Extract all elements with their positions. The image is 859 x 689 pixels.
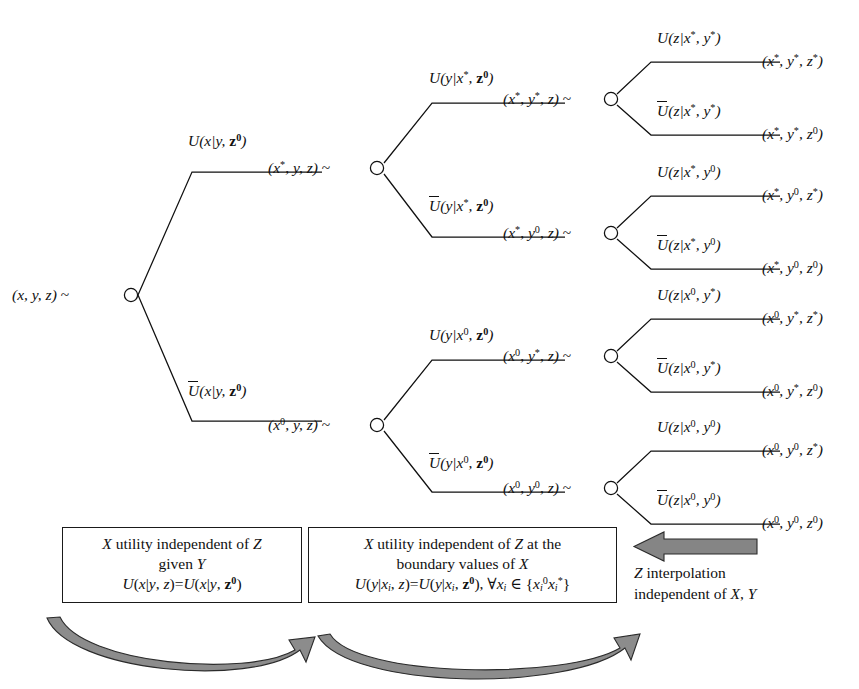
leaf-outcome-1: (x*, y*, z*) [762, 53, 823, 69]
branch-label-l3-5: U(z|x0, y*) [657, 287, 721, 303]
edge-l2c-upper [617, 319, 780, 351]
branch-label-l3-8: U(z|x0, y0) [657, 492, 721, 508]
branch-label-l1-upper: U(x|y, z0) [188, 133, 246, 149]
branch-label-l3-1: U(z|x*, y*) [657, 30, 721, 46]
branch-label-l2-c: U(y|x0, z0) [429, 327, 493, 343]
branch-label-l3-2: U(z|x*, y*) [657, 103, 721, 119]
note-right-line2: boundary values of X [309, 554, 616, 574]
leaf-outcome-5: (x0, y*, z*) [762, 310, 823, 326]
state-l2-c: (x0, y*, z) ~ [503, 348, 571, 364]
caption-right-line1: Z interpolation [634, 564, 726, 581]
leaf-outcome-7: (x0, y0, z*) [762, 442, 823, 458]
note-right-line1: X utility independent of Z at the [309, 534, 616, 554]
branch-label-l3-4: U(z|x*, y0) [657, 237, 721, 253]
curved-arrow-left [47, 617, 315, 671]
note-left-formula: U(x|y, z)=U(x|y, z0) [63, 574, 301, 594]
diagram-canvas: (x, y, z) ~ U(x|y, z0) U(x|y, z0) (x*, y… [0, 0, 859, 689]
caption-right: Z interpolation independent of X, Y [634, 563, 849, 604]
edge-l2a-upper [617, 62, 780, 94]
note-left-line2: given Y [63, 554, 301, 574]
branch-label-l1-lower: U(x|y, z0) [188, 383, 246, 399]
leaf-outcome-8: (x0, y0, z0) [762, 515, 823, 531]
branch-label-l2-a: U(y|x*, z0) [429, 70, 493, 86]
edge-root-lower [138, 295, 322, 421]
edge-l1u-upper [384, 103, 565, 163]
caption-right-line2: independent of X, Y [634, 585, 756, 602]
node-level2-a [604, 92, 617, 105]
branch-label-l3-3: U(z|x*, y0) [657, 164, 721, 180]
edge-l1l-upper [384, 360, 565, 420]
branch-label-l3-7: U(z|x0, y0) [657, 419, 721, 435]
node-level2-c [604, 349, 617, 362]
edge-l2d-upper [617, 451, 780, 483]
state-l2-d: (x0, y0, z) ~ [503, 480, 571, 496]
state-l1-upper: (x*, y, z) ~ [268, 160, 330, 176]
branch-label-l2-d: U(y|x0, z0) [429, 455, 493, 471]
edge-root-upper [138, 172, 322, 295]
state-l1-lower: (x0, y, z) ~ [268, 417, 330, 433]
node-root [124, 288, 137, 301]
leaf-outcome-6: (x0, y*, z0) [762, 383, 823, 399]
node-level2-b [604, 226, 617, 239]
note-right-formula: U(y|xi, z)=U(y|xi, z0), ∀xi ∈ {xi0xi*} [309, 574, 616, 594]
leaf-outcome-3: (x*, y0, z*) [762, 187, 823, 203]
leaf-outcome-4: (x*, y0, z0) [762, 260, 823, 276]
node-level2-d [604, 481, 617, 494]
state-l2-a: (x*, y*, z) ~ [503, 91, 571, 107]
leaf-outcome-2: (x*, y*, z0) [762, 126, 823, 142]
note-box-right: X utility independent of Z at the bounda… [308, 527, 617, 603]
left-arrow-icon [634, 532, 757, 561]
branch-label-l2-b: U(y|x*, z0) [429, 198, 493, 214]
node-level1-upper [370, 161, 383, 174]
note-left-line1: X utility independent of Z [63, 534, 301, 554]
curved-arrow-right [318, 634, 640, 679]
state-root: (x, y, z) ~ [12, 287, 69, 303]
edge-l2b-upper [617, 196, 780, 228]
state-l2-b: (x*, y0, z) ~ [503, 225, 571, 241]
branch-label-l3-6: U(z|x0, y*) [657, 360, 721, 376]
node-level1-lower [370, 418, 383, 431]
note-box-left: X utility independent of Z given Y U(x|y… [62, 527, 302, 603]
